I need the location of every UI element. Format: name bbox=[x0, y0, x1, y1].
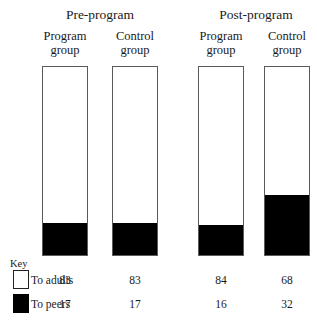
bar-pre-program-group bbox=[42, 66, 88, 256]
column-label-line1: Control bbox=[268, 29, 306, 43]
column-label-line1: Program bbox=[199, 29, 242, 43]
bar-post-program-group bbox=[198, 66, 244, 256]
key-title: Key bbox=[10, 258, 28, 269]
black-swatch-icon bbox=[13, 294, 29, 313]
bar-segment-to-adults bbox=[43, 67, 87, 223]
value-to-peers-post-program: 16 bbox=[198, 298, 244, 310]
bar-segment-to-peers bbox=[113, 223, 157, 255]
bar-segment-to-adults bbox=[199, 67, 243, 225]
white-swatch-icon bbox=[13, 270, 29, 289]
value-to-adults-post-control: 68 bbox=[264, 274, 310, 286]
column-label-line2: group bbox=[246, 44, 317, 58]
bar-post-control-group bbox=[264, 66, 310, 256]
bar-pre-control-group bbox=[112, 66, 158, 256]
bar-segment-to-adults bbox=[265, 67, 309, 195]
group-heading-pre-program: Pre-program bbox=[40, 7, 160, 22]
column-label-line1: Program bbox=[43, 29, 86, 43]
value-to-peers-post-control: 32 bbox=[264, 298, 310, 310]
value-to-adults-post-program: 84 bbox=[198, 274, 244, 286]
column-label-pre-control-group: Control group bbox=[94, 30, 176, 57]
bar-segment-to-peers bbox=[43, 223, 87, 255]
value-to-adults-pre-program: 83 bbox=[42, 274, 88, 286]
value-to-peers-pre-program: 17 bbox=[42, 298, 88, 310]
column-label-line2: group bbox=[94, 44, 176, 58]
value-to-peers-pre-control: 17 bbox=[112, 298, 158, 310]
value-to-adults-pre-control: 83 bbox=[112, 274, 158, 286]
bar-segment-to-peers bbox=[199, 225, 243, 255]
column-label-post-control-group: Control group bbox=[246, 30, 317, 57]
bar-segment-to-peers bbox=[265, 195, 309, 255]
column-label-line1: Control bbox=[116, 29, 154, 43]
bar-segment-to-adults bbox=[113, 67, 157, 223]
group-heading-post-program: Post-program bbox=[196, 7, 316, 22]
